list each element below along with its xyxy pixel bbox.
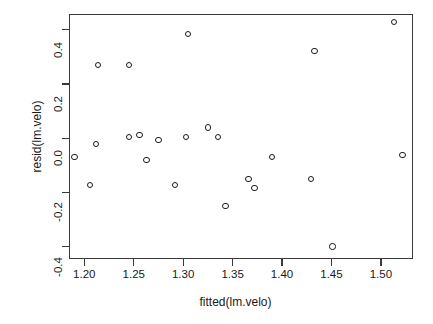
x-axis-tick <box>133 259 134 266</box>
y-axis-tick-label: 0.4 <box>52 30 65 70</box>
x-axis-tick <box>232 259 233 266</box>
x-axis-tick-label: 1.25 <box>112 268 156 281</box>
x-axis-title: fitted(lm.velo) <box>0 295 433 309</box>
x-axis-title-text: fitted(lm.velo) <box>161 295 271 309</box>
x-axis-tick-label: 1.40 <box>260 268 304 281</box>
x-axis-tick-label: 1.50 <box>359 268 403 281</box>
x-axis-tick <box>84 259 85 266</box>
y-axis-title: resid(lm.velo) <box>30 14 44 259</box>
x-axis-tick <box>380 259 381 266</box>
x-axis-tick <box>331 259 332 266</box>
y-axis-tick-label: 0.0 <box>52 138 65 178</box>
y-axis-tick-label: 0.2 <box>52 84 65 124</box>
x-axis-tick-label: 1.35 <box>211 268 255 281</box>
x-axis-tick-label: 1.45 <box>309 268 353 281</box>
x-axis-tick-label: 1.30 <box>161 268 205 281</box>
x-axis-tick <box>281 259 282 266</box>
scatter-plot-figure: 1.201.251.301.351.401.451.500.40.20.0-0.… <box>0 0 433 324</box>
x-axis-tick <box>183 259 184 266</box>
plot-panel <box>69 14 413 259</box>
y-axis-tick-label: -0.4 <box>52 247 65 287</box>
x-axis-tick-label: 1.20 <box>62 268 106 281</box>
y-axis-tick-label: -0.2 <box>52 192 65 232</box>
